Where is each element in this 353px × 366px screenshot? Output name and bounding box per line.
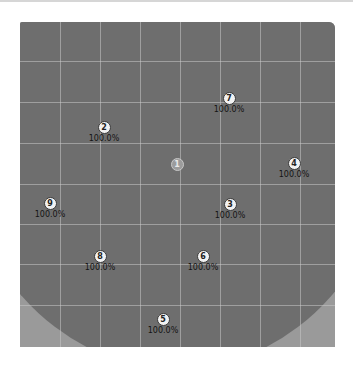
measurement-point-5[interactable]: 5 100.0% bbox=[143, 307, 183, 331]
point-value-label: 100.0% bbox=[274, 170, 314, 179]
measurement-point-7[interactable]: 7 100.0% bbox=[209, 86, 249, 110]
point-number-badge[interactable]: 2 bbox=[98, 121, 111, 134]
measurement-point-6[interactable]: 6 100.0% bbox=[183, 244, 223, 268]
grid-line-horizontal bbox=[20, 264, 335, 265]
point-number-badge[interactable]: 6 bbox=[197, 250, 210, 263]
point-number-badge[interactable]: 4 bbox=[288, 157, 301, 170]
measurement-point-1[interactable]: 1 bbox=[157, 152, 197, 176]
grid-line-horizontal bbox=[20, 143, 335, 144]
point-value-label: 100.0% bbox=[209, 105, 249, 114]
point-number-badge[interactable]: 7 bbox=[223, 92, 236, 105]
point-value-label: 100.0% bbox=[210, 211, 250, 220]
top-divider bbox=[0, 0, 353, 2]
measurement-point-9[interactable]: 9 100.0% bbox=[30, 191, 70, 215]
grid-line-horizontal bbox=[20, 61, 335, 62]
measurement-point-4[interactable]: 4 100.0% bbox=[274, 151, 314, 175]
point-value-label: 100.0% bbox=[84, 134, 124, 143]
grid-line-horizontal bbox=[20, 305, 335, 306]
measurement-point-2[interactable]: 2 100.0% bbox=[84, 115, 124, 139]
point-number-badge[interactable]: 8 bbox=[94, 250, 107, 263]
grid-line-horizontal bbox=[20, 224, 335, 225]
point-number-badge[interactable]: 5 bbox=[157, 313, 170, 326]
measurement-field[interactable] bbox=[20, 22, 335, 347]
measurement-point-8[interactable]: 8 100.0% bbox=[80, 244, 120, 268]
point-value-label: 100.0% bbox=[80, 263, 120, 272]
point-value-label: 100.0% bbox=[183, 263, 223, 272]
point-value-label: 100.0% bbox=[30, 210, 70, 219]
point-number-badge[interactable]: 1 bbox=[171, 158, 184, 171]
point-number-badge[interactable]: 3 bbox=[224, 198, 237, 211]
grid-line-horizontal bbox=[20, 102, 335, 103]
point-number-badge[interactable]: 9 bbox=[44, 197, 57, 210]
grid-line-horizontal bbox=[20, 184, 335, 185]
point-value-label: 100.0% bbox=[143, 326, 183, 335]
measurement-point-3[interactable]: 3 100.0% bbox=[210, 192, 250, 216]
